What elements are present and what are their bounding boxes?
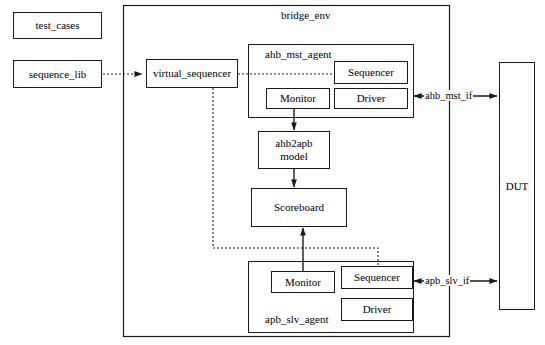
ahb2apb-model-block[interactable]: ahb2apb model: [258, 131, 330, 169]
sequence-lib-block[interactable]: sequence_lib: [13, 60, 102, 88]
bridge-env-label: bridge_env: [281, 9, 330, 21]
test-cases-block[interactable]: test_cases: [13, 12, 102, 39]
virtual-sequencer-block[interactable]: virtual_sequencer: [146, 59, 238, 88]
apb-slv-agent-monitor[interactable]: Monitor: [271, 271, 335, 293]
ahb2apb-model-line1: ahb2apb: [275, 137, 312, 150]
apb-slv-agent-sequencer[interactable]: Sequencer: [341, 266, 413, 289]
ahb-mst-agent-label: ahb_mst_agent: [265, 48, 332, 60]
apb-slv-if-label: apb_slv_if: [424, 275, 470, 286]
ahb-mst-agent-monitor[interactable]: Monitor: [266, 88, 330, 109]
dut-block[interactable]: DUT: [499, 62, 535, 310]
scoreboard-block[interactable]: Scoreboard: [251, 188, 347, 227]
apb-slv-agent-driver[interactable]: Driver: [341, 298, 413, 321]
apb-slv-agent-label: apb_slv_agent: [265, 313, 329, 325]
ahb-mst-agent-driver[interactable]: Driver: [334, 88, 408, 109]
diagram-canvas: virtual_sequencer (dotted) --> ahb Seque…: [0, 0, 545, 345]
ahb2apb-model-line2: model: [280, 150, 308, 163]
ahb-mst-agent-sequencer[interactable]: Sequencer: [334, 61, 408, 84]
ahb-mst-if-label: ahb_mst_if: [424, 90, 473, 101]
